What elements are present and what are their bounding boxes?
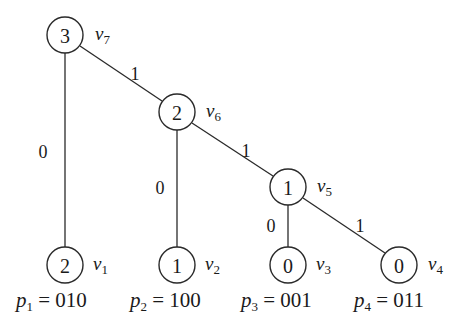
node-name: v1 (93, 253, 108, 277)
edge-label-v6-v5: 1 (242, 141, 251, 161)
node-v5: 1 v5 (270, 169, 332, 205)
node-value: 3 (60, 25, 70, 47)
path-code: 100 (169, 288, 201, 312)
path-code: 001 (280, 288, 312, 312)
path-code: 010 (55, 288, 87, 312)
node-name: v7 (95, 23, 110, 47)
node-value: 0 (394, 255, 404, 277)
path-eq: = (33, 288, 55, 312)
path-label-p1: p1 = 010 (16, 288, 87, 315)
path-label-p2: p2 = 100 (130, 288, 201, 315)
node-value: 2 (60, 255, 70, 277)
node-value: 0 (283, 255, 293, 277)
edge-v5-v4 (303, 198, 385, 253)
edge-labels: 0 1 0 1 0 1 (39, 64, 365, 236)
edges (65, 46, 385, 253)
edge-v7-v6 (80, 46, 162, 101)
node-name: v3 (316, 253, 331, 277)
node-name: v4 (428, 253, 443, 277)
path-var: p (16, 288, 27, 312)
path-eq: = (258, 288, 280, 312)
edge-label-v7-v6: 1 (131, 64, 140, 84)
node-v1: 2 v1 (47, 247, 108, 283)
edge-label-v5-v3: 0 (267, 216, 276, 236)
node-v6: 2 v6 (159, 94, 221, 130)
node-name: v2 (205, 253, 220, 277)
edge-label-v6-v2: 0 (156, 178, 165, 198)
node-name: v5 (317, 175, 332, 199)
edge-label-v5-v4: 1 (356, 216, 365, 236)
path-label-p4: p4 = 011 (354, 288, 424, 315)
node-value: 1 (283, 177, 293, 199)
node-value: 1 (172, 255, 182, 277)
path-eq: = (147, 288, 169, 312)
path-code: 011 (393, 288, 424, 312)
node-name: v6 (206, 100, 221, 124)
path-var: p (241, 288, 252, 312)
path-label-p3: p3 = 001 (241, 288, 312, 315)
node-v2: 1 v2 (159, 247, 220, 283)
node-v4: 0 v4 (381, 247, 443, 283)
path-var: p (130, 288, 141, 312)
node-v3: 0 v3 (270, 247, 331, 283)
node-v7: 3 v7 (47, 17, 110, 53)
node-value: 2 (172, 102, 182, 124)
tree-diagram: 0 1 0 1 0 1 3 v7 2 v6 1 v5 2 v1 1 (0, 0, 476, 336)
path-eq: = (371, 288, 393, 312)
path-var: p (354, 288, 365, 312)
edge-label-v7-v1: 0 (39, 142, 48, 162)
edge-v6-v5 (192, 123, 273, 176)
